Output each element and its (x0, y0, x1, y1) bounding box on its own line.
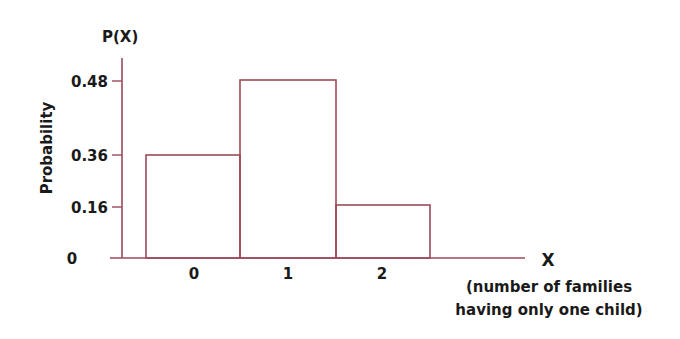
y-axis-label: Probability (38, 101, 56, 194)
x-category-label-2: 2 (377, 265, 387, 283)
y-tick-label-0.16: 0.16 (71, 199, 108, 217)
probability-histogram: P(X) 0.48 0.36 0.16 0 Probability 0 1 2 … (0, 0, 680, 339)
y-tick-label-0.48: 0.48 (71, 73, 108, 91)
y-tick-label-0: 0 (67, 250, 77, 268)
x-axis-label: X (541, 250, 554, 270)
x-axis-note-line1: (number of families (466, 278, 632, 296)
y-axis-title: P(X) (102, 28, 138, 46)
x-category-label-0: 0 (189, 265, 199, 283)
bar-x-0 (146, 155, 240, 258)
x-category-label-1: 1 (283, 265, 293, 283)
bar-x-1 (240, 80, 336, 258)
x-axis-note-line2: having only one child) (455, 301, 642, 319)
y-tick-label-0.36: 0.36 (71, 147, 108, 165)
bar-x-2 (336, 205, 430, 258)
